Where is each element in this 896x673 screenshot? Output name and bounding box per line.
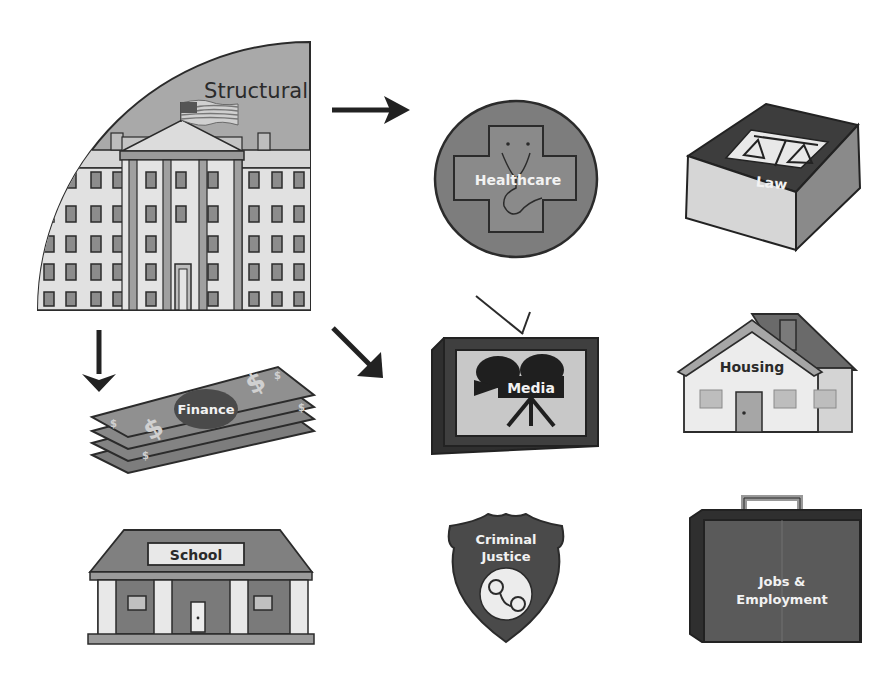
tv-camera-icon: Media — [428, 292, 604, 456]
media-node: Media — [428, 292, 604, 456]
arrow-right-icon — [326, 90, 416, 130]
jobs-node: Jobs & Employment — [686, 490, 862, 646]
criminal-justice-node: Criminal Justice — [440, 508, 572, 648]
law-node: Law — [676, 100, 866, 260]
housing-node: Housing — [668, 310, 860, 436]
school-node: School — [84, 528, 316, 648]
police-badge-icon: Criminal Justice — [440, 508, 572, 648]
briefcase-icon: Jobs & Employment — [686, 490, 862, 646]
healthcare-node: Healthcare — [432, 98, 600, 260]
medical-cross-icon: Healthcare — [432, 98, 600, 260]
arrow-diagonal-icon — [325, 320, 390, 385]
money-stack-icon: Finance $ $ $$ $$ — [88, 355, 328, 475]
structural-node: Structural — [36, 40, 314, 312]
school-building-icon: School — [84, 528, 316, 648]
law-book-icon: Law — [676, 100, 866, 260]
house-icon: Housing — [668, 310, 860, 436]
government-building-icon: Structural — [36, 40, 314, 312]
finance-node: Finance $ $ $$ $$ — [88, 355, 328, 475]
